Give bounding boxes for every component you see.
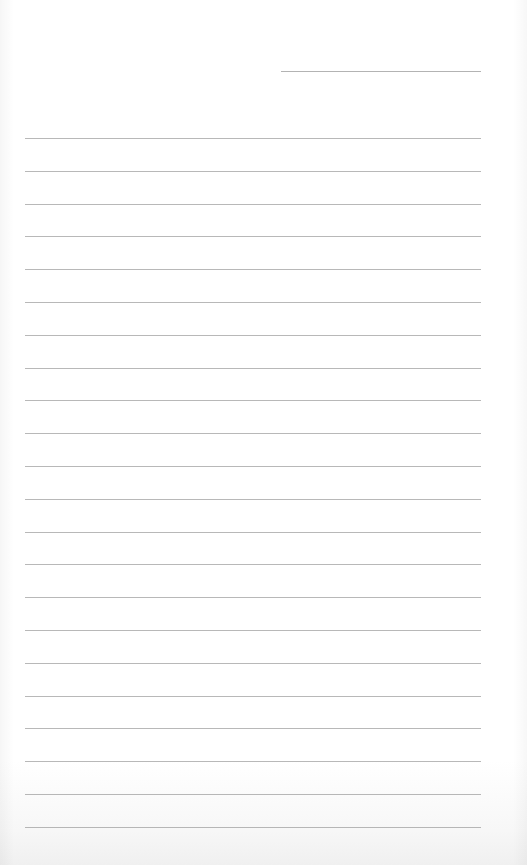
rule-line (25, 696, 481, 697)
rule-line (25, 335, 481, 336)
rule-line (25, 466, 481, 467)
rule-line (25, 269, 481, 270)
rule-line (25, 827, 481, 828)
rule-line (25, 532, 481, 533)
lined-page (0, 0, 527, 865)
rule-line (25, 564, 481, 565)
rule-line (25, 761, 481, 762)
rule-line (25, 400, 481, 401)
rule-line (25, 499, 481, 500)
rule-line (25, 204, 481, 205)
rule-line (25, 138, 481, 139)
rule-line (25, 368, 481, 369)
rule-line (25, 630, 481, 631)
header-date-line (281, 71, 481, 72)
rule-line (25, 302, 481, 303)
rule-line (25, 663, 481, 664)
rule-line (25, 433, 481, 434)
rule-line (25, 171, 481, 172)
rule-line (25, 794, 481, 795)
rule-line (25, 236, 481, 237)
rule-line (25, 728, 481, 729)
rule-line (25, 597, 481, 598)
